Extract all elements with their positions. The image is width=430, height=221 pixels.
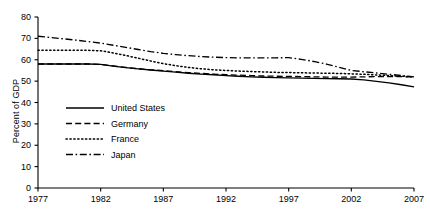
y-axis-tick-label: 60 <box>9 55 31 65</box>
y-axis-tick-label: 70 <box>9 33 31 43</box>
line-chart: Percent of GDP 01020304050607080 1977198… <box>0 0 430 221</box>
series-line-france <box>38 50 414 77</box>
y-axis-tick-label: 30 <box>9 119 31 129</box>
x-axis-tick-label: 1992 <box>206 194 246 204</box>
legend-label-france: France <box>111 134 139 144</box>
series-line-united-states <box>38 64 414 87</box>
x-axis-tick-label: 1982 <box>81 194 121 204</box>
series-line-japan <box>38 36 414 77</box>
legend-label-japan: Japan <box>111 150 136 160</box>
x-axis-tick-label: 1977 <box>18 194 58 204</box>
x-axis-tick-label: 1987 <box>143 194 183 204</box>
x-axis-tick-label: 2007 <box>394 194 430 204</box>
y-axis-tick-label: 20 <box>9 140 31 150</box>
y-axis-tick-label: 0 <box>9 183 31 193</box>
y-axis-tick-label: 40 <box>9 98 31 108</box>
y-axis-tick-label: 50 <box>9 76 31 86</box>
x-axis-tick-label: 1997 <box>269 194 309 204</box>
x-axis-tick-label: 2002 <box>331 194 371 204</box>
y-axis-tick-label: 80 <box>9 12 31 22</box>
legend-label-united-states: United States <box>111 103 165 113</box>
legend-label-germany: Germany <box>111 119 148 129</box>
plot-canvas <box>0 0 430 221</box>
y-axis-tick-label: 10 <box>9 162 31 172</box>
